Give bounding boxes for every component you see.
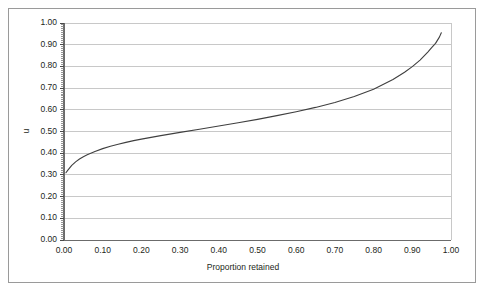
- figure-frame: u Proportion retained 0.000.100.200.300.…: [8, 8, 476, 283]
- x-tick-label: 0.70: [315, 245, 355, 255]
- x-tick-label: 0.50: [238, 245, 278, 255]
- chart-canvas: [9, 9, 477, 284]
- y-tick-label: 0.60: [23, 104, 57, 114]
- x-tick-label: 1.00: [431, 245, 471, 255]
- x-tick-label: 0.60: [276, 245, 316, 255]
- y-tick-label: 0.80: [23, 60, 57, 70]
- x-tick-label: 0.30: [160, 245, 200, 255]
- y-tick-label: 0.70: [23, 82, 57, 92]
- x-tick-label: 0.20: [121, 245, 161, 255]
- y-tick-label: 0.90: [23, 39, 57, 49]
- y-tick-label: 0.10: [23, 212, 57, 222]
- y-tick-label: 0.00: [23, 234, 57, 244]
- x-tick-label: 0.40: [199, 245, 239, 255]
- x-tick-label: 0.00: [44, 245, 84, 255]
- y-tick-label: 0.20: [23, 191, 57, 201]
- x-tick-label: 0.10: [83, 245, 123, 255]
- y-tick-label: 1.00: [23, 17, 57, 27]
- y-tick-label: 0.50: [23, 126, 57, 136]
- y-tick-label: 0.30: [23, 169, 57, 179]
- x-tick-label: 0.90: [392, 245, 432, 255]
- y-tick-label: 0.40: [23, 147, 57, 157]
- x-tick-label: 0.80: [354, 245, 394, 255]
- chart-plot-area: u Proportion retained 0.000.100.200.300.…: [9, 9, 477, 284]
- x-axis-title: Proportion retained: [9, 262, 477, 272]
